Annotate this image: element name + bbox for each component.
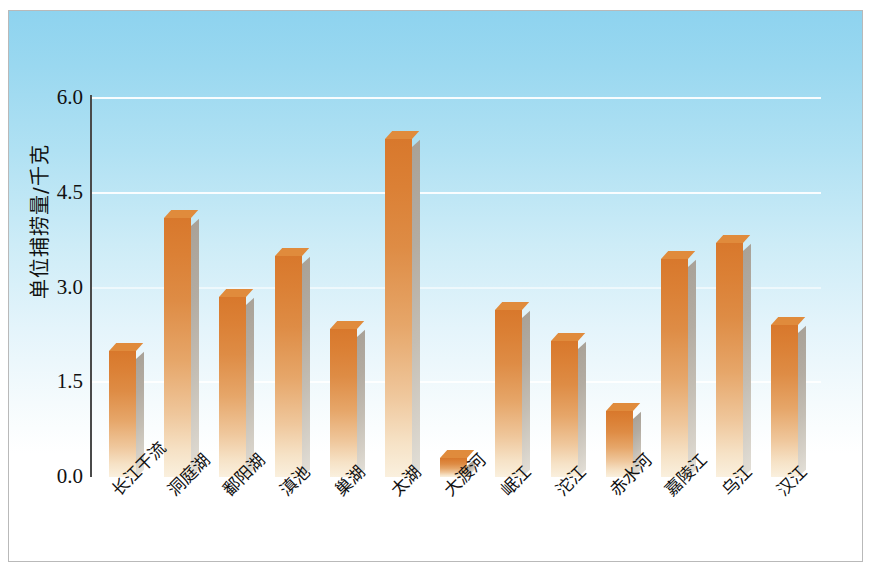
- bar: [495, 11, 530, 477]
- bar: [771, 11, 806, 477]
- bar: [385, 11, 420, 477]
- bar-top-face: [661, 251, 695, 259]
- bar: [330, 11, 365, 477]
- chart-screenshot: 0.01.53.04.56.0 单位捕捞量/千克 长江干流洞庭湖鄱阳湖滇池巢湖太…: [0, 0, 871, 570]
- bar-top-face: [109, 343, 143, 351]
- bar-front-face: [661, 259, 688, 477]
- y-tick-label: 1.5: [37, 371, 83, 392]
- bar-top-face: [606, 403, 640, 411]
- bar-front-face: [330, 329, 357, 477]
- bar: [164, 11, 199, 477]
- bar-top-face: [495, 302, 529, 310]
- bar: [219, 11, 254, 477]
- bar-top-face: [164, 210, 198, 218]
- bar-side-face: [688, 260, 696, 477]
- bar-front-face: [275, 256, 302, 477]
- bar-side-face: [743, 244, 751, 477]
- y-axis-title: 单位捕捞量/千克: [24, 107, 53, 337]
- bar-top-face: [330, 321, 364, 329]
- bar-front-face: [495, 310, 522, 477]
- bar: [716, 11, 751, 477]
- bar-top-face: [551, 333, 585, 341]
- bar: [440, 11, 475, 477]
- y-tick-label: 6.0: [37, 87, 83, 108]
- bar-side-face: [191, 219, 199, 477]
- bar-side-face: [522, 310, 530, 477]
- bar: [661, 11, 696, 477]
- bar-top-face: [771, 317, 805, 325]
- bar-top-face: [716, 235, 750, 243]
- bar-front-face: [716, 243, 743, 477]
- bar-side-face: [302, 257, 310, 477]
- bar-front-face: [385, 139, 412, 477]
- bar: [606, 11, 641, 477]
- bar-side-face: [357, 329, 365, 477]
- bar-top-face: [385, 131, 419, 139]
- bar-front-face: [219, 297, 246, 477]
- bar-side-face: [412, 140, 420, 477]
- x-axis-tick-labels: 长江干流洞庭湖鄱阳湖滇池巢湖太湖大渡河岷江沱江赤水河嘉陵江乌江汉江: [9, 477, 862, 561]
- bar-side-face: [578, 342, 586, 477]
- bar-front-face: [164, 218, 191, 477]
- chart-figure: 0.01.53.04.56.0 单位捕捞量/千克 长江干流洞庭湖鄱阳湖滇池巢湖太…: [8, 10, 863, 562]
- bar-front-face: [551, 341, 578, 477]
- bar: [551, 11, 586, 477]
- bar-top-face: [219, 289, 253, 297]
- bar: [109, 11, 144, 477]
- bar-front-face: [771, 325, 798, 477]
- bar-side-face: [798, 326, 806, 477]
- y-axis-line: [90, 95, 92, 477]
- plot-area: 0.01.53.04.56.0 单位捕捞量/千克: [9, 11, 862, 477]
- bar: [275, 11, 310, 477]
- bar-top-face: [275, 248, 309, 256]
